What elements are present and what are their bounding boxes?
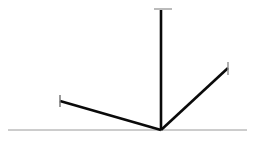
diagram-canvas: [0, 0, 256, 144]
line-diagram-svg: [0, 0, 256, 144]
diagram-background: [0, 0, 256, 144]
